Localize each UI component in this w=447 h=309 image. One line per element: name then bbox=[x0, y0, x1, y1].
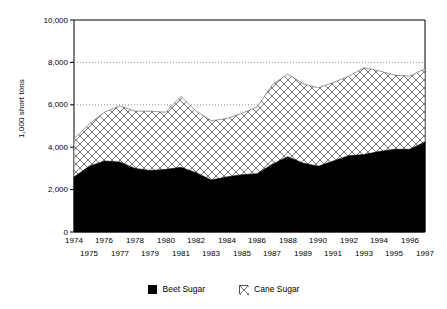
legend-label: Cane Sugar bbox=[254, 284, 299, 294]
chart-legend: Beet Sugar Cane Sugar bbox=[0, 284, 447, 294]
x-tick-label: 1986 bbox=[242, 236, 272, 245]
x-tick-label: 1982 bbox=[181, 236, 211, 245]
x-tick-label: 1975 bbox=[74, 249, 104, 258]
x-tick-label: 1989 bbox=[288, 249, 318, 258]
x-tick-label: 1977 bbox=[105, 249, 135, 258]
x-tick-label: 1983 bbox=[196, 249, 226, 258]
x-tick-label: 1978 bbox=[120, 236, 150, 245]
x-tick-label: 1991 bbox=[318, 249, 348, 258]
x-tick-label: 1979 bbox=[135, 249, 165, 258]
x-tick-label: 1974 bbox=[59, 236, 89, 245]
plot-area bbox=[0, 0, 447, 309]
legend-entry-cane-sugar[interactable]: Cane Sugar bbox=[239, 284, 299, 294]
x-tick-label: 1985 bbox=[227, 249, 257, 258]
x-tick-label: 1992 bbox=[334, 236, 364, 245]
x-tick-label: 1981 bbox=[166, 249, 196, 258]
x-tick-label: 1993 bbox=[349, 249, 379, 258]
x-tick-label: 1996 bbox=[395, 236, 425, 245]
legend-label: Beet Sugar bbox=[163, 284, 206, 294]
sugar-production-area-chart: 1,000 short tons 10,000 8,000 6,000 4,00… bbox=[0, 0, 447, 309]
x-tick-label: 1994 bbox=[364, 236, 394, 245]
x-tick-label: 1988 bbox=[273, 236, 303, 245]
x-tick-label: 1976 bbox=[89, 236, 119, 245]
legend-entry-beet-sugar[interactable]: Beet Sugar bbox=[148, 284, 206, 294]
x-tick-label: 1990 bbox=[303, 236, 333, 245]
x-tick-label: 1987 bbox=[257, 249, 287, 258]
x-tick-label: 1995 bbox=[379, 249, 409, 258]
x-tick-label: 1984 bbox=[212, 236, 242, 245]
solid-black-square-icon bbox=[148, 285, 157, 294]
y-axis-ticks bbox=[70, 20, 74, 232]
cross-hatch-square-icon bbox=[239, 285, 248, 294]
x-axis-tick-labels: 1974 1976 1978 1980 1982 1984 1986 1988 … bbox=[0, 0, 447, 40]
x-tick-label: 1997 bbox=[410, 249, 440, 258]
x-tick-label: 1980 bbox=[151, 236, 181, 245]
